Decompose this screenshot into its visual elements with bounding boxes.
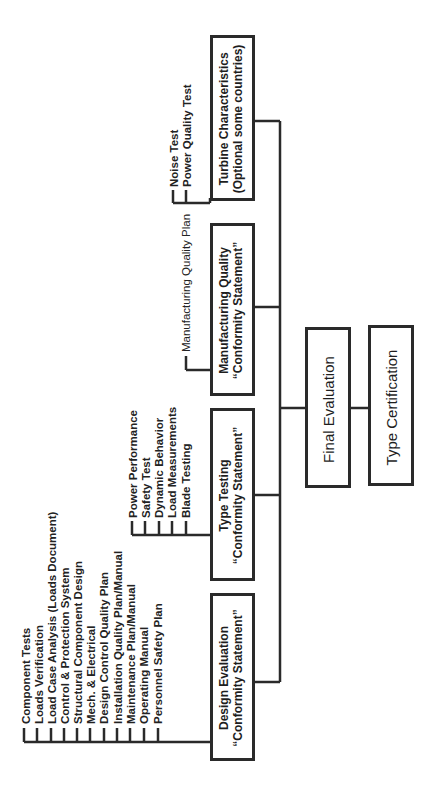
box-title: Type Certification xyxy=(383,337,400,478)
box-title: Final Evaluation xyxy=(320,339,337,480)
list-item: Mech. & Electrical xyxy=(85,626,97,724)
certification-flowchart: Component Tests Loads Verification Load … xyxy=(0,0,431,804)
box-subtitle: “Conformity Statement” xyxy=(232,417,246,574)
list-item: Component Tests xyxy=(20,628,32,724)
list-item: Manufacturing Quality Plan xyxy=(180,214,192,352)
turbine-characteristics-box: Turbine Characteristics (Optional some c… xyxy=(210,35,255,201)
list-item: Structural Component Design xyxy=(72,561,84,724)
box-subtitle: “Conformity Statement” xyxy=(232,232,246,389)
type-testing-box: Type Testing “Conformity Statement” xyxy=(210,408,255,581)
box-title: Type Testing xyxy=(218,417,232,574)
box-subtitle: (Optional some countries) xyxy=(232,44,246,194)
list-item: Design Control Quality Plan xyxy=(98,572,110,724)
list-item: Power Quality Test xyxy=(181,84,193,187)
list-item: Dynamic Behavior xyxy=(153,418,165,518)
list-item: Installation Quality Plan/Manual xyxy=(112,551,124,724)
box-title: Design Evaluation xyxy=(218,602,232,754)
design-evaluation-box: Design Evaluation “Conformity Statement” xyxy=(210,593,255,761)
list-item: Personnel Safety Plan xyxy=(152,603,164,724)
list-item: Load Case Analysis (Loads Document) xyxy=(46,512,58,724)
list-item: Operating Manual xyxy=(138,627,150,724)
box-title: Manufacturing Quality xyxy=(218,232,232,389)
type-certification-box: Type Certification xyxy=(368,325,414,486)
list-item: Control & Protection System xyxy=(59,567,71,724)
box-subtitle: “Conformity Statement” xyxy=(232,602,246,754)
list-item: Loads Verification xyxy=(33,625,45,724)
list-item: Power Performance xyxy=(127,410,139,518)
list-item: Load Measurements xyxy=(166,407,178,518)
box-title: Turbine Characteristics xyxy=(218,44,232,194)
manufacturing-quality-box: Manufacturing Quality “Conformity Statem… xyxy=(210,223,255,396)
list-item: Blade Testing xyxy=(180,443,192,518)
list-item: Safety Test xyxy=(140,457,152,518)
final-evaluation-box: Final Evaluation xyxy=(305,327,351,488)
list-item: Noise Test xyxy=(168,130,180,187)
list-item: Maintenance Plan/Manual xyxy=(125,584,137,724)
